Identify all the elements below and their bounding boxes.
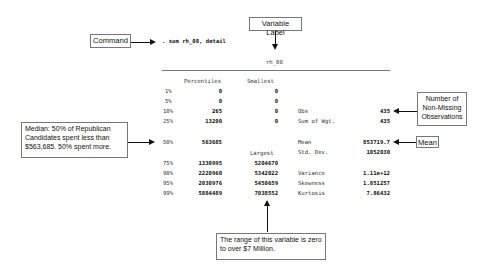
pct-value: 563685 xyxy=(190,139,222,145)
sd-label: Std. Dev. xyxy=(298,149,328,155)
pct-label: 90% xyxy=(163,170,173,176)
variable-label-callout: Variable Label xyxy=(249,17,302,31)
smallest-value: 0 xyxy=(245,88,278,94)
header-smallest: Smallest xyxy=(247,78,274,84)
obs-value: 435 xyxy=(350,108,390,114)
nonmissing-arrow xyxy=(398,111,417,112)
header-percentiles: Percentiles xyxy=(184,78,221,84)
pct-value: 2030976 xyxy=(190,180,222,186)
pct-label: 25% xyxy=(163,118,173,124)
pct-label: 95% xyxy=(163,180,173,186)
range-arrowhead-icon xyxy=(264,200,270,206)
pct-value: 5884489 xyxy=(190,190,222,196)
command-arrowhead-icon xyxy=(150,39,156,45)
pct-label: 10% xyxy=(163,108,173,114)
pct-value: 0 xyxy=(190,98,222,104)
pct-value: 2220960 xyxy=(190,170,222,176)
median-callout: Median: 50% of Republican Candidates spe… xyxy=(21,122,128,158)
largest-value: 7038552 xyxy=(245,190,278,196)
pct-label: 50% xyxy=(163,139,173,145)
pct-value: 0 xyxy=(190,88,222,94)
mean-arrow xyxy=(398,142,416,143)
pct-label: 1% xyxy=(165,88,172,94)
largest-value: 5450659 xyxy=(245,180,278,186)
mean-callout: Mean xyxy=(416,136,439,148)
pct-label: 99% xyxy=(163,190,173,196)
sd-value: 1052030 xyxy=(340,149,390,155)
pct-label: 75% xyxy=(163,160,173,166)
output-separator xyxy=(162,70,390,71)
obs-label: Obs xyxy=(298,108,308,114)
pct-value: 13200 xyxy=(190,118,222,124)
range-callout: The range of this variable is zero to ov… xyxy=(216,233,326,260)
smallest-value: 0 xyxy=(245,108,278,114)
variance-label: Variance xyxy=(298,170,325,176)
nonmissing-callout: Number of Non-Missing Observations xyxy=(417,92,467,126)
mean-value: 853719.7 xyxy=(340,139,390,145)
kurtosis-value: 7.86432 xyxy=(340,190,390,196)
command-callout: Command xyxy=(90,34,131,48)
mean-label: Mean xyxy=(298,139,311,145)
smallest-value: 0 xyxy=(245,98,278,104)
pct-value: 1330995 xyxy=(190,160,222,166)
largest-value: 5204670 xyxy=(245,160,278,166)
mean-arrowhead-icon xyxy=(393,139,399,145)
variable-label-arrowhead-icon xyxy=(272,44,278,50)
range-arrow xyxy=(267,206,268,232)
variable-label-arrow xyxy=(275,31,276,44)
variance-value: 1.11e+12 xyxy=(340,170,390,176)
kurtosis-label: Kurtosis xyxy=(298,190,325,196)
nonmissing-arrowhead-icon xyxy=(393,108,399,114)
smallest-value: 0 xyxy=(245,118,278,124)
sumwgt-value: 435 xyxy=(350,118,390,124)
sumwgt-label: Sum of Wgt. xyxy=(298,118,335,124)
median-arrow xyxy=(128,142,149,143)
pct-label: 5% xyxy=(165,98,172,104)
command-text: . sum rh_08, detail xyxy=(162,38,226,44)
skewness-value: 1.851257 xyxy=(340,180,390,186)
median-arrowhead-icon xyxy=(149,139,155,145)
variable-label: rh_08 xyxy=(266,59,283,65)
header-largest: Largest xyxy=(250,150,274,156)
largest-value: 5342022 xyxy=(245,170,278,176)
skewness-label: Skewness xyxy=(298,180,325,186)
pct-value: 265 xyxy=(190,108,222,114)
command-arrow xyxy=(131,42,151,43)
